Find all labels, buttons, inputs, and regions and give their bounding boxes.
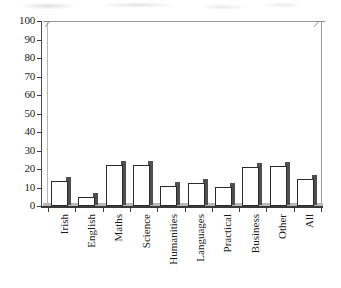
x-tick-mark bbox=[157, 208, 158, 212]
x-label-all: All bbox=[304, 214, 315, 228]
bar-all bbox=[297, 179, 314, 206]
y-tick-label: 50 bbox=[24, 108, 35, 119]
y-tick-mark bbox=[37, 169, 42, 170]
x-label-other: Other bbox=[277, 214, 288, 239]
x-tick-mark bbox=[321, 208, 322, 212]
y-tick-mark bbox=[37, 77, 42, 78]
bar-business bbox=[242, 167, 259, 206]
x-label-business: Business bbox=[250, 214, 261, 253]
bar-maths bbox=[106, 165, 123, 206]
y-tick-label: 40 bbox=[24, 126, 35, 137]
bar-other bbox=[270, 166, 287, 206]
x-label-science: Science bbox=[141, 214, 152, 248]
y-tick-label: 70 bbox=[24, 71, 35, 82]
x-label-languages: Languages bbox=[195, 214, 206, 262]
bar-chart-figure: 0102030405060708090100 IrishEnglishMaths… bbox=[0, 0, 341, 288]
y-tick-mark bbox=[37, 40, 42, 41]
bar-science bbox=[133, 165, 150, 206]
x-tick-mark bbox=[48, 208, 49, 212]
bar-practical bbox=[215, 187, 232, 206]
y-tick-label: 30 bbox=[24, 145, 35, 156]
y-tick-label: 80 bbox=[24, 52, 35, 63]
x-tick-mark bbox=[75, 208, 76, 212]
y-tick-label: 20 bbox=[24, 163, 35, 174]
x-tick-mark bbox=[130, 208, 131, 212]
x-label-maths: Maths bbox=[113, 214, 124, 242]
y-tick-label: 60 bbox=[24, 89, 35, 100]
y-tick-mark bbox=[37, 188, 42, 189]
x-label-english: English bbox=[86, 214, 97, 248]
x-tick-mark bbox=[103, 208, 104, 212]
y-tick-mark bbox=[37, 21, 42, 22]
y-tick-mark bbox=[37, 95, 42, 96]
y-tick-mark bbox=[37, 132, 42, 133]
x-label-humanities: Humanities bbox=[168, 214, 179, 265]
x-tick-mark bbox=[185, 208, 186, 212]
bar-humanities bbox=[160, 186, 177, 206]
y-tick-label: 100 bbox=[19, 15, 35, 26]
y-tick-mark bbox=[37, 114, 42, 115]
y-tick-label: 0 bbox=[30, 200, 35, 211]
y-tick-label: 90 bbox=[24, 34, 35, 45]
x-tick-mark bbox=[212, 208, 213, 212]
scan-artifact-smudge bbox=[18, 0, 318, 12]
bar-irish bbox=[51, 181, 68, 206]
x-tick-mark bbox=[294, 208, 295, 212]
bar-languages bbox=[188, 183, 205, 206]
x-tick-mark bbox=[239, 208, 240, 212]
x-tick-mark bbox=[266, 208, 267, 212]
y-tick-label: 10 bbox=[24, 182, 35, 193]
x-axis-baseline bbox=[41, 206, 323, 208]
x-label-irish: Irish bbox=[59, 214, 70, 234]
y-tick-mark bbox=[37, 206, 42, 207]
bar-english bbox=[78, 197, 95, 206]
y-tick-mark bbox=[37, 58, 42, 59]
y-tick-mark bbox=[37, 151, 42, 152]
x-label-practical: Practical bbox=[222, 214, 233, 252]
